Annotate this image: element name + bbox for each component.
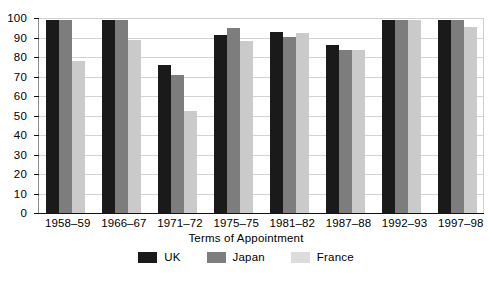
legend-swatch-icon bbox=[138, 252, 157, 263]
bar-japan-1997–98 bbox=[451, 20, 464, 213]
x-axis-tick-label: 1997–98 bbox=[438, 216, 477, 232]
x-axis-tick-label: 1971–72 bbox=[157, 216, 196, 232]
bar-group bbox=[102, 18, 141, 213]
y-axis-tick-label: 20 bbox=[14, 169, 27, 181]
bar-france-1997–98 bbox=[464, 27, 477, 213]
x-axis-tick-label: 1958–59 bbox=[45, 216, 84, 232]
legend-label: UK bbox=[164, 252, 180, 264]
plot-area: 0102030405060708090100 bbox=[38, 18, 484, 214]
legend-label: Japan bbox=[233, 252, 265, 264]
y-axis-tick-label: 30 bbox=[14, 150, 27, 162]
bar-uk-1958–59 bbox=[46, 20, 59, 213]
bar-france-1992–93 bbox=[408, 20, 421, 213]
bar-uk-1971–72 bbox=[158, 65, 171, 213]
plot-wrapper: 0102030405060708090100 bbox=[38, 18, 484, 214]
bar-group bbox=[326, 18, 365, 213]
legend-label: France bbox=[317, 252, 354, 264]
bar-japan-1987–88 bbox=[339, 50, 352, 213]
x-axis-tick-label: 1992–93 bbox=[382, 216, 421, 232]
y-axis-tick-label: 0 bbox=[20, 208, 27, 220]
y-axis-tick: 0 bbox=[34, 213, 39, 214]
bar-japan-1975–75 bbox=[227, 28, 240, 213]
bar-uk-1966–67 bbox=[102, 20, 115, 213]
x-axis-tick-labels: 1958–591966–671971–721975–751981–821987–… bbox=[38, 216, 484, 232]
chart-legend: UKJapanFrance bbox=[0, 252, 492, 264]
x-axis-tick-label: 1966–67 bbox=[101, 216, 140, 232]
bar-france-1987–88 bbox=[352, 50, 365, 213]
bar-group bbox=[382, 18, 421, 213]
y-axis-tick-label: 50 bbox=[14, 111, 27, 123]
bar-france-1966–67 bbox=[128, 40, 141, 213]
x-axis-title: Terms of Appointment bbox=[0, 232, 492, 244]
bar-chart: 0102030405060708090100 1958–591966–67197… bbox=[0, 0, 492, 282]
y-axis-tick-label: 10 bbox=[14, 189, 27, 201]
bar-france-1958–59 bbox=[72, 61, 85, 213]
y-axis-tick-label: 60 bbox=[14, 91, 27, 103]
bar-france-1975–75 bbox=[240, 41, 253, 213]
bar-group bbox=[270, 18, 309, 213]
legend-swatch-icon bbox=[291, 252, 310, 263]
bar-japan-1981–82 bbox=[283, 37, 296, 213]
y-axis-tick-label: 80 bbox=[14, 52, 27, 64]
legend-swatch-icon bbox=[207, 252, 226, 263]
legend-item-france[interactable]: France bbox=[291, 252, 354, 264]
bar-group bbox=[214, 18, 253, 213]
bar-japan-1966–67 bbox=[115, 20, 128, 213]
bar-uk-1981–82 bbox=[270, 32, 283, 213]
legend-item-japan[interactable]: Japan bbox=[207, 252, 265, 264]
bar-uk-1997–98 bbox=[438, 20, 451, 213]
bar-uk-1987–88 bbox=[326, 45, 339, 213]
bar-france-1971–72 bbox=[184, 111, 197, 213]
bar-france-1981–82 bbox=[296, 33, 309, 213]
x-axis-tick-label: 1975–75 bbox=[213, 216, 252, 232]
legend-item-uk[interactable]: UK bbox=[138, 252, 180, 264]
y-axis-tick-label: 70 bbox=[14, 72, 27, 84]
bar-japan-1971–72 bbox=[171, 75, 184, 213]
x-axis-tick-label: 1981–82 bbox=[270, 216, 309, 232]
bar-japan-1958–59 bbox=[59, 20, 72, 213]
bar-uk-1975–75 bbox=[214, 35, 227, 213]
bar-japan-1992–93 bbox=[395, 20, 408, 213]
y-axis-tick-label: 100 bbox=[7, 13, 27, 25]
x-axis-tick-label: 1987–88 bbox=[326, 216, 365, 232]
bar-group bbox=[46, 18, 85, 213]
y-axis-tick-label: 90 bbox=[14, 33, 27, 45]
bar-uk-1992–93 bbox=[382, 20, 395, 213]
bar-group bbox=[438, 18, 477, 213]
bar-group bbox=[158, 18, 197, 213]
y-axis-tick-label: 40 bbox=[14, 130, 27, 142]
bar-groups bbox=[39, 18, 484, 213]
